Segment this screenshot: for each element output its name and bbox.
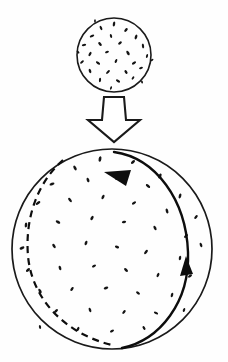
speck <box>131 201 136 205</box>
small-sphere-group <box>76 18 154 92</box>
speck <box>134 34 138 40</box>
small-sphere-outline <box>77 18 151 92</box>
transform-arrow-group <box>88 97 140 142</box>
speck <box>91 264 96 268</box>
speck <box>141 43 144 48</box>
speck <box>170 292 174 297</box>
speck <box>123 267 128 272</box>
speck <box>99 25 103 30</box>
speck <box>118 41 123 45</box>
speck <box>88 51 92 56</box>
sphere-transformation-diagram <box>0 0 228 362</box>
figure-root <box>0 0 228 362</box>
speck <box>105 50 110 53</box>
speck <box>39 325 42 329</box>
speck <box>99 78 102 83</box>
speck <box>178 193 182 199</box>
speck <box>139 67 143 70</box>
speck <box>145 183 151 188</box>
speck <box>101 194 105 199</box>
speck <box>143 249 148 255</box>
speck <box>178 256 181 261</box>
speck <box>130 159 135 164</box>
speck <box>70 286 75 291</box>
speck <box>153 225 157 231</box>
speck <box>194 214 199 219</box>
speck <box>90 215 95 220</box>
speck <box>122 220 127 223</box>
speck <box>110 86 113 90</box>
speck <box>109 329 114 333</box>
orbit-arrowhead-up-left <box>104 170 131 186</box>
large-sphere-group <box>12 149 212 349</box>
speck <box>58 265 62 270</box>
speck <box>82 44 87 47</box>
speck <box>94 19 96 23</box>
speck <box>80 60 85 65</box>
speck <box>136 291 141 295</box>
speck <box>106 70 111 75</box>
speck <box>153 311 158 315</box>
speck <box>122 310 127 315</box>
speck <box>131 61 136 65</box>
speck <box>98 41 103 46</box>
speck <box>49 182 55 186</box>
speck <box>115 245 120 249</box>
speck <box>112 21 115 27</box>
speck <box>95 61 100 66</box>
speck <box>124 27 129 32</box>
speck <box>73 165 78 171</box>
speck <box>165 208 169 214</box>
speck <box>114 59 118 64</box>
speck <box>88 69 92 74</box>
speck <box>199 242 203 247</box>
speck <box>142 326 146 331</box>
speck <box>55 220 61 225</box>
speck <box>182 308 186 313</box>
speck <box>86 177 90 182</box>
speck <box>131 76 135 80</box>
speck <box>124 70 128 75</box>
speck <box>67 197 72 203</box>
orbit-arrowhead-up <box>180 256 193 276</box>
speck <box>146 54 149 58</box>
speck <box>88 307 92 312</box>
transform-arrow <box>88 97 140 142</box>
speck <box>109 34 112 38</box>
large-sphere-outline <box>12 149 212 349</box>
speck <box>89 34 94 38</box>
speck <box>52 243 57 248</box>
back-orbit-dashed <box>28 160 112 345</box>
speck <box>24 222 27 227</box>
speck <box>84 240 88 245</box>
speck <box>115 79 120 83</box>
speck <box>126 50 131 56</box>
speck <box>98 156 102 162</box>
speck <box>103 286 108 290</box>
speck <box>156 272 160 277</box>
speck <box>19 246 25 251</box>
